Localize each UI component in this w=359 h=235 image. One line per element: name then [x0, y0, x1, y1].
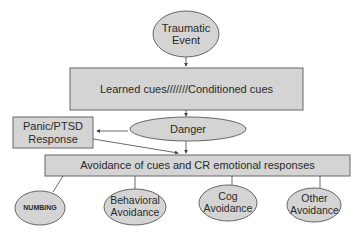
- panic-response-label: Panic/PTSD Response: [13, 117, 93, 148]
- cog-avoidance-label: Cog Avoidance: [199, 186, 257, 220]
- edge-avoidance-to-numbing: [53, 176, 63, 192]
- other-line2: Avoidance: [290, 205, 339, 217]
- avoidance-label: Avoidance of cues and CR emotional respo…: [45, 155, 350, 176]
- traumatic-event-label: Traumatic Event: [153, 14, 219, 54]
- other-avoidance-label: Other Avoidance: [287, 188, 342, 222]
- behavioral-avoidance-label: Behavioral Avoidance: [104, 190, 166, 224]
- traumatic-event-line2: Event: [172, 34, 200, 46]
- traumatic-event-line1: Traumatic: [162, 22, 211, 34]
- cog-line2: Avoidance: [204, 203, 253, 215]
- learned-cues-label: Learned cues///////Conditioned cues: [70, 68, 303, 110]
- edge-panic-to-avoidance: [93, 139, 178, 153]
- danger-label: Danger: [130, 118, 246, 140]
- numbing-label: NUMBING: [15, 192, 65, 224]
- panic-line1: Panic/PTSD: [23, 120, 83, 132]
- panic-line2: Response: [28, 133, 78, 145]
- behavioral-line2: Avoidance: [111, 207, 160, 219]
